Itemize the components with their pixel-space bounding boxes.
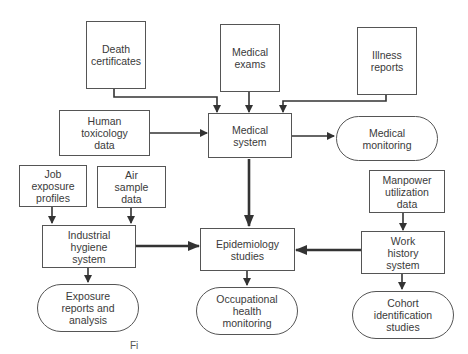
node-exposure-reports-and-analysis: Exposure reports and analysis	[37, 284, 139, 332]
node-illness-reports: Illness reports	[357, 27, 417, 95]
node-cohort-identification-studies: Cohort identification studies	[352, 291, 454, 339]
node-occupational-health-monitoring: Occupational health monitoring	[196, 287, 298, 335]
node-label: Occupational health monitoring	[216, 293, 277, 329]
node-label: Death certificates	[91, 43, 141, 67]
node-medical-exams: Medical exams	[220, 24, 280, 92]
node-industrial-hygiene-system: Industrial hygiene system	[42, 225, 136, 268]
node-label: Job exposure profiles	[31, 168, 74, 204]
node-label: Medical monitoring	[362, 127, 411, 151]
node-label: Medical system	[232, 124, 268, 148]
node-label: Epidemiology studies	[216, 238, 279, 262]
node-manpower-utilization-data: Manpower utilization data	[369, 170, 445, 213]
node-work-history-system: Work history system	[361, 231, 445, 274]
node-medical-system: Medical system	[208, 113, 292, 158]
node-label: Medical exams	[232, 46, 268, 70]
node-label: Industrial hygiene system	[68, 229, 111, 265]
node-label: Exposure reports and analysis	[61, 290, 114, 326]
node-label: Manpower utilization data	[382, 174, 431, 210]
figure-caption: Fi	[130, 340, 138, 351]
node-label: Human toxicology data	[81, 115, 128, 151]
node-medical-monitoring: Medical monitoring	[336, 116, 438, 161]
node-label: Illness reports	[371, 49, 404, 73]
node-label: Work history system	[386, 235, 419, 271]
node-death-certificates: Death certificates	[86, 21, 146, 89]
node-label: Air sample data	[115, 169, 149, 205]
node-label: Cohort identification studies	[374, 297, 432, 333]
node-epidemiology-studies: Epidemiology studies	[200, 228, 295, 271]
node-human-toxicology-data: Human toxicology data	[59, 110, 150, 156]
node-air-sample-data: Air sample data	[97, 166, 166, 208]
node-job-exposure-profiles: Job exposure profiles	[19, 165, 87, 207]
